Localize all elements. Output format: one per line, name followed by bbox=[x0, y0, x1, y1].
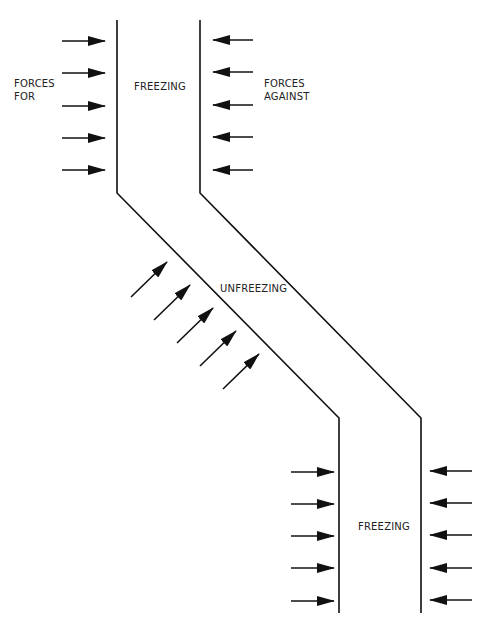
force-arrows bbox=[62, 40, 472, 601]
diagonal-for-arrow-icon bbox=[177, 308, 213, 343]
left-line-boundary bbox=[117, 20, 339, 613]
freezing-top-label: FREEZING bbox=[134, 80, 186, 93]
forces-for-label: FORCES FOR bbox=[14, 77, 55, 103]
unfreezing-label: UNFREEZING bbox=[220, 282, 287, 295]
diagonal-for-arrow-icon bbox=[131, 262, 167, 297]
diagonal-for-arrow-icon bbox=[223, 354, 259, 389]
freezing-bottom-label: FREEZING bbox=[358, 520, 410, 533]
force-field-diagram bbox=[0, 0, 483, 628]
diagonal-for-arrow-icon bbox=[154, 285, 190, 320]
forces-against-label: FORCES AGAINST bbox=[264, 77, 310, 103]
diagonal-for-arrow-icon bbox=[200, 331, 236, 366]
